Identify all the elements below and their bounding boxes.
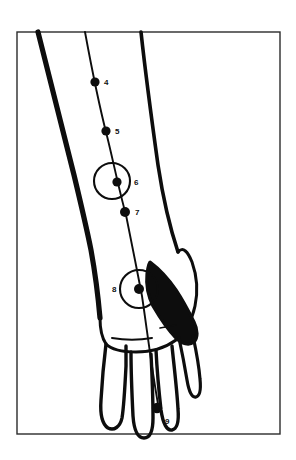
middle-finger-outline: [131, 352, 153, 438]
forearm-right-edge-outline: [141, 32, 178, 252]
emphasis-circle-point-6: [94, 163, 130, 199]
acupoint-dot-7: [120, 207, 130, 217]
acupoint-dot-5: [101, 126, 110, 135]
acupoint-dot-9: [152, 403, 162, 413]
knuckle-crease-line: [112, 338, 152, 340]
acupuncture-figure-panel: 456789: [0, 0, 296, 460]
acupoint-dot-6: [112, 177, 121, 186]
acupoint-dot-4: [90, 77, 99, 86]
acupoint-dot-8: [134, 284, 144, 294]
acupoint-label-8: 8: [112, 285, 117, 294]
acupoint-label-6: 6: [134, 178, 139, 187]
acupoint-label-7: 7: [135, 208, 140, 217]
limb-outline-group: [38, 32, 200, 438]
acupoint-label-9: 9: [165, 417, 170, 426]
forearm-left-edge-outline: [38, 32, 100, 318]
acupoint-label-4: 4: [104, 78, 109, 87]
meridian-diagram: 456789: [0, 0, 296, 460]
thumb-outline: [147, 262, 197, 344]
acupoint-label-5: 5: [115, 127, 120, 136]
index-finger-outline: [101, 344, 126, 429]
